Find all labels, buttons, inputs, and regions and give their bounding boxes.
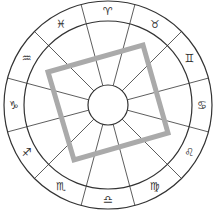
capricorn-icon: ♑︎ <box>9 100 19 111</box>
virgo-icon: ♍︎ <box>150 181 160 192</box>
leo-icon: ♌︎ <box>184 147 194 158</box>
aries-icon: ♈︎ <box>103 6 113 17</box>
cancer-icon: ♋︎ <box>197 100 207 111</box>
sagittarius-icon: ♐︎ <box>22 147 32 158</box>
divider-line <box>113 124 135 205</box>
taurus-icon: ♉︎ <box>150 18 160 29</box>
divider-line <box>122 119 181 178</box>
zodiac-wheel <box>0 0 217 211</box>
aquarius-icon: ♒︎ <box>22 53 32 64</box>
divider-line <box>113 5 135 86</box>
libra-icon: ♎︎ <box>103 194 113 205</box>
inner-ring <box>88 85 128 125</box>
divider-line <box>127 78 208 100</box>
divider-line <box>81 124 103 205</box>
divider-line <box>81 5 103 86</box>
scorpio-icon: ♏︎ <box>56 181 66 192</box>
gemini-icon: ♊︎ <box>184 53 194 64</box>
pisces-icon: ♓︎ <box>56 18 66 29</box>
divider-line <box>8 110 89 132</box>
divider-line <box>8 78 89 100</box>
